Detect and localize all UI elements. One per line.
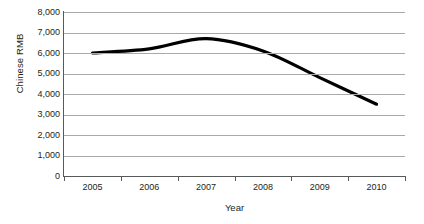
y-tick-label: 5,000 xyxy=(18,69,60,78)
x-axis-tick-labels: 200520062007200820092010 xyxy=(64,182,405,196)
x-tick-mark xyxy=(235,176,236,181)
x-tick-label: 2009 xyxy=(290,182,350,193)
x-tick-mark xyxy=(291,176,292,181)
x-tick-label: 2006 xyxy=(119,182,179,193)
x-tick-mark xyxy=(348,176,349,181)
y-tick-label: 4,000 xyxy=(18,90,60,99)
y-axis-tick-labels: 8,0007,0006,0005,0004,0003,0002,0001,000… xyxy=(18,0,60,224)
gridline xyxy=(64,12,405,13)
gridline xyxy=(64,53,405,54)
gridline xyxy=(64,33,405,34)
gridline xyxy=(64,135,405,136)
line-chart: Chinese RMB 8,0007,0006,0005,0004,0003,0… xyxy=(0,0,424,224)
gridline xyxy=(64,74,405,75)
y-tick-label: 0 xyxy=(18,172,60,181)
x-tick-label: 2005 xyxy=(62,182,122,193)
x-tick-mark xyxy=(64,176,65,181)
y-tick-label: 6,000 xyxy=(18,49,60,58)
y-tick-label: 2,000 xyxy=(18,131,60,140)
x-tick-mark xyxy=(178,176,179,181)
x-tick-label: 2010 xyxy=(347,182,407,193)
y-tick-label: 1,000 xyxy=(18,151,60,160)
gridline xyxy=(64,115,405,116)
y-tick-label: 8,000 xyxy=(18,8,60,17)
x-tick-mark xyxy=(121,176,122,181)
x-tick-label: 2007 xyxy=(176,182,236,193)
gridline xyxy=(64,156,405,157)
y-tick-label: 3,000 xyxy=(18,110,60,119)
plot-area xyxy=(64,12,405,176)
y-tick-label: 7,000 xyxy=(18,28,60,37)
x-tick-label: 2008 xyxy=(233,182,293,193)
gridline xyxy=(64,94,405,95)
x-axis-title: Year xyxy=(64,202,405,213)
x-tick-mark xyxy=(405,176,406,181)
